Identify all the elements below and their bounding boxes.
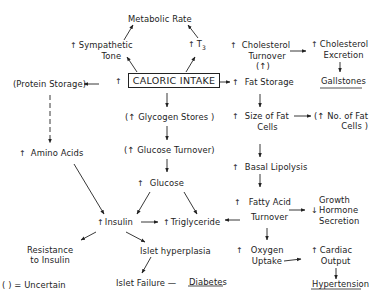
- node-size-of-fat-cells: ↑Size of Fat Cells: [232, 111, 289, 132]
- fatty-acid-line1: Fatty Acid: [249, 197, 291, 207]
- resistance-line2: to Insulin: [30, 255, 69, 265]
- hypertension-label: Hypertension: [312, 279, 369, 289]
- node-amino-acids: ↑Amino Acids: [19, 148, 83, 159]
- cardiac-line2: Output: [321, 256, 351, 266]
- no-fat-cells-line1: (↑ No. of Fat: [314, 111, 368, 121]
- node-diabetes: Diabetes: [189, 277, 227, 287]
- increase-arrow-icon: ↑: [115, 77, 122, 86]
- node-growth-hormone: Growth ↓Hormone Secretion: [311, 195, 359, 226]
- fat-storage-label: Fat Storage: [245, 77, 294, 87]
- no-fat-cells-line2: Cells ): [341, 121, 368, 131]
- node-cholesterol-turnover: ↑Cholesterol Turnover: [230, 40, 290, 61]
- metabolic-rate-label: Metabolic Rate: [128, 14, 192, 24]
- node-t3: ↑T3: [188, 39, 206, 53]
- glucose-label: Glucose: [150, 178, 184, 188]
- size-fat-cells-line1: Size of Fat: [245, 111, 289, 121]
- resistance-line1: Resistance: [27, 245, 73, 255]
- oxygen-line2: Uptake: [252, 256, 282, 266]
- islet-failure-label: Islet Failure —: [116, 278, 176, 288]
- edge-insulin-to-hyperplasia: [126, 232, 145, 242]
- node-cholesterol-excretion: ↑Cholesterol Excretion: [311, 39, 368, 60]
- cholesterol-turnover-line2: Turnover: [248, 51, 285, 61]
- diabetes-label: Diabetes: [189, 277, 227, 287]
- increase-arrow-icon: ↑: [188, 40, 195, 49]
- caloric-intake-box: CALORIC INTAKE: [128, 73, 221, 88]
- node-islet-hyperplasia: Islet hyperplasia: [140, 246, 211, 256]
- decrease-arrow-icon: ↓: [311, 206, 317, 216]
- increase-arrow-icon: ↑: [311, 40, 318, 49]
- t3-subscript: 3: [202, 44, 206, 51]
- increase-arrow-icon: ↑: [232, 112, 239, 121]
- cholesterol-excretion-line1: Cholesterol: [320, 39, 368, 49]
- node-metabolic-rate: Metabolic Rate: [128, 14, 192, 24]
- increase-arrow-icon: ↑: [137, 179, 144, 188]
- increase-arrow-icon: ↑: [70, 41, 77, 50]
- node-glucose-turnover: (↑ Glucose Turnover): [124, 145, 215, 155]
- protein-storage-label: (Protein Storage): [13, 79, 86, 89]
- legend-text: ( ) = Uncertain: [2, 280, 66, 290]
- node-triglyceride: ↑Triglyceride: [163, 217, 220, 228]
- node-no-of-fat-cells: (↑ No. of Fat Cells ): [314, 111, 368, 131]
- uncertain-arrow-label: (↑): [256, 61, 270, 71]
- node-resistance-to-insulin: Resistance to Insulin: [27, 245, 73, 265]
- amino-acids-label: Amino Acids: [31, 148, 84, 158]
- increase-arrow-icon: ↑: [232, 163, 239, 172]
- glycogen-stores-label: (↑ Glycogen Stores ): [125, 112, 214, 122]
- increase-arrow-icon: ↑: [230, 41, 237, 50]
- edge-caloric-to-t3: [186, 57, 195, 72]
- sympathetic-tone-line2: Tone: [102, 51, 122, 61]
- increase-arrow-icon: ↑: [163, 218, 170, 227]
- increase-arrow-icon: ↑: [236, 246, 243, 255]
- sympathetic-tone-line1: Sympathetic: [79, 40, 133, 50]
- node-glycogen-stores: (↑ Glycogen Stores ): [125, 112, 214, 122]
- node-oxygen-uptake: ↑Oxygen Uptake: [236, 245, 284, 266]
- node-caloric-intake: ↑CALORIC INTAKE: [115, 76, 220, 87]
- oxygen-line1: Oxygen: [251, 245, 284, 255]
- basal-lipolysis-label: Basal Lipolysis: [245, 162, 308, 172]
- node-gallstones: Gallstones: [321, 76, 366, 86]
- node-islet-failure: Islet Failure —: [116, 278, 176, 288]
- node-insulin: ↑Insulin: [97, 217, 133, 228]
- increase-arrow-icon: ↑: [234, 198, 241, 207]
- triglyceride-label: Triglyceride: [171, 217, 220, 227]
- node-glucose: ↑Glucose: [137, 178, 184, 189]
- node-fat-storage: ↑Fat Storage: [232, 77, 294, 88]
- insulin-label: Insulin: [105, 217, 133, 227]
- gallstones-label: Gallstones: [321, 76, 366, 86]
- cholesterol-excretion-line2: Excretion: [324, 50, 364, 60]
- node-fatty-acid-turnover: ↑Fatty Acid Turnover: [234, 197, 291, 227]
- size-fat-cells-line2: Cells: [257, 122, 278, 132]
- node-basal-lipolysis: ↑Basal Lipolysis: [232, 162, 307, 173]
- islet-hyperplasia-label: Islet hyperplasia: [140, 246, 211, 256]
- increase-arrow-icon: ↑: [232, 78, 239, 87]
- growth-line3: Secretion: [319, 216, 359, 226]
- fatty-acid-line2: Turnover: [251, 212, 288, 222]
- growth-line1: Growth: [319, 195, 350, 205]
- node-protein-storage: (Protein Storage): [13, 79, 86, 89]
- edge-sympathetic-to-metabolic: [124, 25, 133, 40]
- node-cardiac-output: ↑Cardiac Output: [311, 245, 352, 266]
- edge-hyperplasia-to-failure: [142, 257, 151, 273]
- increase-arrow-icon: ↑: [19, 149, 26, 158]
- node-uncertain-arrow: (↑): [256, 61, 270, 71]
- growth-line2: Hormone: [319, 205, 358, 215]
- edge-glucose-to-insulin: [137, 192, 150, 214]
- edge-amino-to-insulin: [74, 164, 104, 214]
- cholesterol-turnover-line1: Cholesterol: [242, 40, 290, 50]
- node-hypertension: Hypertension: [312, 279, 369, 289]
- glucose-turnover-label: (↑ Glucose Turnover): [124, 145, 215, 155]
- edge-insulin-to-resistance: [81, 232, 96, 240]
- edge-t3-to-metabolic: [188, 25, 198, 38]
- increase-arrow-icon: ↑: [311, 246, 318, 255]
- node-sympathetic-tone: ↑Sympathetic Tone: [70, 40, 133, 61]
- edge-oxygen-to-cardiac: [284, 259, 301, 261]
- legend-uncertain: ( ) = Uncertain: [2, 280, 66, 290]
- edge-glucose-to-triglyceride: [184, 192, 197, 214]
- increase-arrow-icon: ↑: [97, 218, 104, 227]
- cardiac-line1: Cardiac: [320, 245, 352, 255]
